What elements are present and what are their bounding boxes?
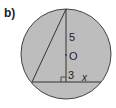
unknown-x-label: x: [81, 72, 88, 83]
center-point: [65, 54, 67, 56]
center-label: O: [69, 50, 78, 62]
segment-lower-label: 3: [68, 69, 74, 81]
circle-chord-diagram: 5 O 3 x: [0, 0, 116, 108]
segment-upper-label: 5: [69, 31, 75, 43]
